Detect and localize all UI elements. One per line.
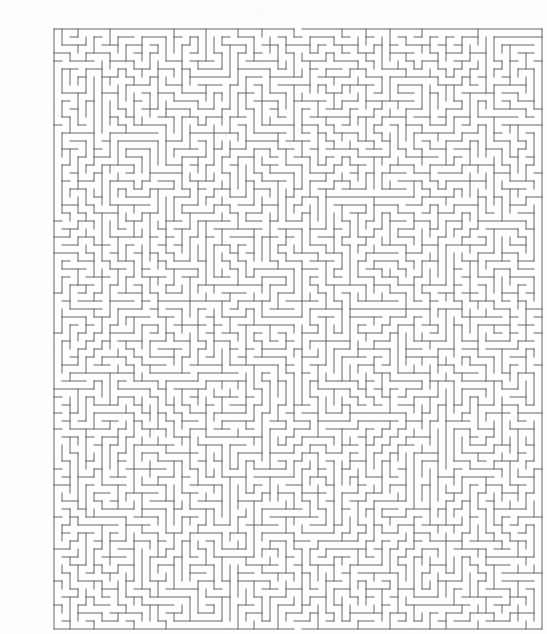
maze-figure: Maze: [40, 16, 547, 634]
maze-canvas: Maze: [40, 16, 547, 634]
maze-wall-path: [54, 29, 542, 629]
maze-wall-layer: [54, 29, 542, 629]
